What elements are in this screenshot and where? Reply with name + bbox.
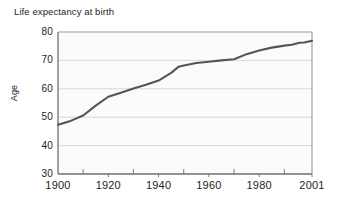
life-expectancy-chart: Life expectancy at birth Age 30405060708…: [0, 0, 337, 204]
plot-area: [0, 0, 337, 204]
plot-background: [58, 32, 312, 174]
